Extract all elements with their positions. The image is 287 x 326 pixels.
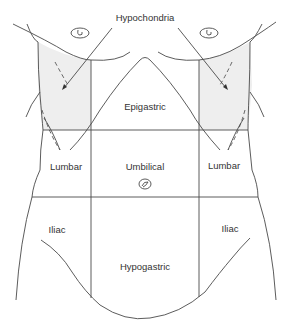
label-iliac-left: Iliac [49, 224, 66, 235]
label-umbilical: Umbilical [126, 161, 165, 172]
abdominal-regions-diagram: Hypochondria Epigastric Lumbar Umbilical… [0, 0, 287, 326]
label-epigastric: Epigastric [124, 101, 166, 112]
left-chest-outline [27, 24, 38, 42]
inguinal-curve [41, 238, 250, 319]
right-nipple-icon [200, 28, 218, 38]
right-breast-curve [158, 22, 276, 60]
left-flank-outline [16, 42, 43, 300]
right-arm-outline [250, 92, 264, 117]
right-flank-outline [248, 42, 276, 300]
left-nipple-icon [71, 28, 89, 38]
label-hypogastric: Hypogastric [120, 261, 170, 272]
umbilicus-icon [139, 179, 151, 189]
label-lumbar-right: Lumbar [208, 160, 240, 171]
label-lumbar-left: Lumbar [50, 161, 82, 172]
left-breast-curve [13, 24, 130, 60]
label-hypochondria: Hypochondria [116, 12, 175, 23]
left-arm-outline [26, 92, 40, 117]
label-iliac-right: Iliac [222, 223, 239, 234]
